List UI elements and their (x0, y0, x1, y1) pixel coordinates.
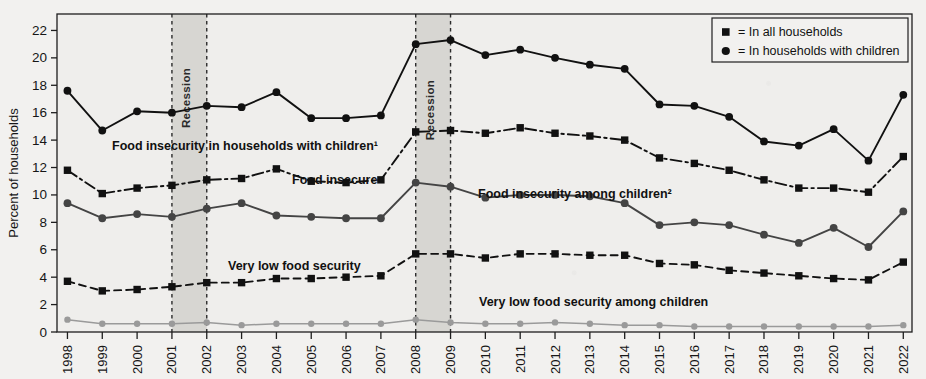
data-point (516, 46, 524, 54)
recession-band-2: Recession (416, 14, 451, 332)
data-point (238, 322, 244, 328)
series-annotation-children: Food insecurity among children² (478, 187, 672, 201)
data-point (203, 205, 211, 213)
x-tick-label: 2016 (687, 345, 702, 374)
data-point (204, 319, 210, 325)
data-point (691, 323, 697, 329)
legend-item-1: = In all households (722, 25, 843, 39)
data-point (447, 319, 453, 325)
data-point (238, 103, 246, 111)
data-point (64, 278, 71, 285)
x-tick-label: 2009 (443, 345, 458, 374)
y-tick-label: 0 (39, 325, 47, 340)
data-point (342, 114, 350, 122)
data-point (412, 179, 420, 187)
data-point (830, 184, 837, 191)
data-point (795, 272, 802, 279)
data-point (482, 130, 489, 137)
data-point (377, 272, 384, 279)
x-tick-label: 2018 (756, 345, 771, 374)
series-annotation-top-line: Food insecurity in households with child… (112, 139, 378, 153)
data-point (168, 213, 176, 221)
x-tick-label: 2015 (652, 345, 667, 374)
data-point (899, 207, 907, 215)
x-tick-label: 2022 (896, 345, 911, 374)
data-point (586, 61, 594, 69)
x-tick-label: 2008 (408, 345, 423, 374)
data-point (342, 273, 349, 280)
data-point (168, 283, 175, 290)
x-tick-label: 2002 (199, 345, 214, 374)
recession-shade (416, 14, 451, 332)
y-tick-label: 16 (32, 105, 47, 120)
data-point (273, 212, 281, 220)
data-point (308, 275, 315, 282)
y-tick-label: 2 (39, 297, 47, 312)
x-tick-label: 2014 (617, 345, 632, 374)
data-point (865, 276, 872, 283)
data-point (99, 190, 106, 197)
data-point (656, 101, 664, 109)
data-point (830, 224, 838, 232)
x-tick-label: 2010 (478, 345, 493, 374)
data-point (865, 188, 872, 195)
data-point (447, 183, 455, 191)
data-point (726, 323, 732, 329)
data-point (551, 250, 558, 257)
x-tick-label: 2021 (861, 345, 876, 374)
data-point (203, 279, 210, 286)
x-tick-label: 2007 (373, 345, 388, 374)
y-axis-title: Percent of households (6, 108, 21, 238)
data-point (551, 54, 559, 62)
x-tick-label: 2001 (164, 345, 179, 374)
data-point (760, 138, 768, 146)
data-point (865, 243, 873, 251)
data-point (899, 91, 907, 99)
data-point (64, 199, 72, 207)
y-tick-label: 8 (39, 215, 47, 230)
data-point (342, 214, 350, 222)
data-point (307, 213, 315, 221)
x-tick-label: 1999 (95, 345, 110, 374)
data-point (133, 184, 140, 191)
data-point (134, 321, 140, 327)
data-point (168, 182, 175, 189)
data-point (900, 258, 907, 265)
x-tick-label: 2005 (304, 345, 319, 374)
data-point (64, 316, 70, 322)
series-annotation-very-low: Very low food security (228, 259, 361, 273)
series-annotation-food-insecure: Food insecure (292, 173, 377, 187)
data-point (586, 132, 593, 139)
data-point (587, 321, 593, 327)
y-tick-label: 10 (32, 187, 47, 202)
x-tick-label: 2004 (269, 345, 284, 374)
data-point (760, 231, 768, 239)
data-point (482, 321, 488, 327)
data-point (690, 102, 698, 110)
data-point (412, 40, 420, 48)
data-point (552, 319, 558, 325)
data-point (238, 199, 246, 207)
legend-circle-marker (722, 47, 730, 55)
y-tick-label: 4 (39, 270, 47, 285)
chart-canvas: RecessionRecession 0246810121416182022Pe… (0, 0, 926, 379)
data-point (516, 250, 523, 257)
data-point (377, 112, 385, 120)
data-point (133, 210, 141, 218)
data-point (133, 286, 140, 293)
x-tick-label: 2000 (130, 345, 145, 374)
y-tick-label: 22 (32, 23, 47, 38)
data-point (238, 279, 245, 286)
data-point (725, 167, 732, 174)
data-point (412, 250, 419, 257)
y-tick-label: 6 (39, 242, 47, 257)
x-tick-label: 2013 (582, 345, 597, 374)
y-tick-label: 12 (32, 160, 47, 175)
data-point (203, 176, 210, 183)
data-point (621, 322, 627, 328)
data-point (656, 154, 663, 161)
data-point (447, 127, 454, 134)
data-point (203, 102, 211, 110)
data-point (656, 322, 662, 328)
data-point (900, 322, 906, 328)
